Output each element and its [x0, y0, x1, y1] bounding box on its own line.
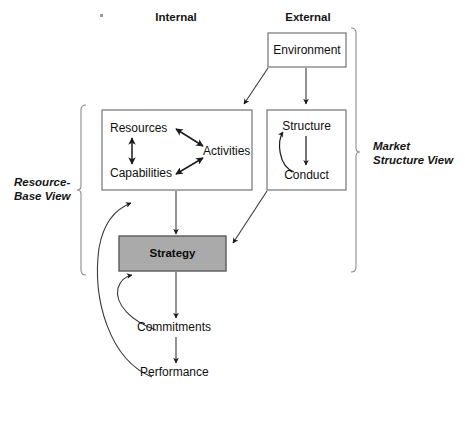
- performance-label: Performance: [140, 365, 209, 379]
- arrow-performance-feedback-to-internal: [98, 203, 152, 377]
- page-speck: [100, 14, 103, 17]
- activities-label: Activities: [203, 144, 250, 158]
- resources-label: Resources: [110, 121, 167, 135]
- right-bracket: [351, 28, 360, 272]
- resource-base-view-label: Resource- Base View: [14, 176, 70, 203]
- left-bracket: [77, 105, 86, 275]
- resource-base-view-line1: Resource-: [14, 176, 70, 188]
- structure-label: Structure: [267, 119, 346, 133]
- commitments-label: Commitments: [137, 320, 211, 334]
- arrow-external-to-strategy: [233, 191, 267, 243]
- market-structure-view-line1: Market: [373, 140, 410, 152]
- environment-label: Environment: [268, 43, 346, 57]
- market-structure-view-label: Market Structure View: [373, 140, 453, 167]
- strategy-framework-diagram: Internal External Environment Resources …: [0, 0, 465, 421]
- resource-base-view-line2: Base View: [14, 190, 70, 202]
- column-label-internal: Internal: [140, 11, 212, 23]
- column-label-external: External: [272, 11, 344, 23]
- market-structure-view-line2: Structure View: [373, 154, 453, 166]
- strategy-label: Strategy: [119, 247, 226, 259]
- arrow-environment-to-internal: [244, 68, 268, 104]
- conduct-label: Conduct: [267, 168, 346, 182]
- diagram-canvas: [0, 0, 465, 421]
- capabilities-label: Capabilities: [110, 166, 172, 180]
